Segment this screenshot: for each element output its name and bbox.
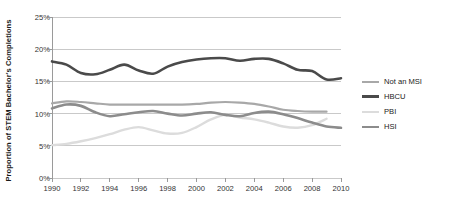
axis-lines [48,17,341,182]
gridlines [52,17,341,178]
data-series-lines [52,58,341,145]
legend-item[interactable]: PBI [362,104,450,119]
legend-item-label: HSI [384,122,397,131]
legend-swatch-icon [362,95,379,98]
legend-item-label: Not an MSI [384,77,422,86]
series-line-pbi [52,115,327,145]
chart-legend: Not an MSIHBCUPBIHSI [362,74,450,134]
legend-swatch-icon [362,111,379,113]
legend-item[interactable]: Not an MSI [362,74,450,89]
chart-container: Proportion of STEM Bachelor's Completion… [0,0,450,215]
legend-swatch-icon [362,126,379,128]
legend-item[interactable]: HBCU [362,89,450,104]
legend-item-label: PBI [384,107,396,116]
legend-item-label: HBCU [384,92,406,101]
series-line-hsi [52,104,341,127]
legend-item[interactable]: HSI [362,119,450,134]
legend-swatch-icon [362,81,379,83]
series-line-hbcu [52,58,341,80]
